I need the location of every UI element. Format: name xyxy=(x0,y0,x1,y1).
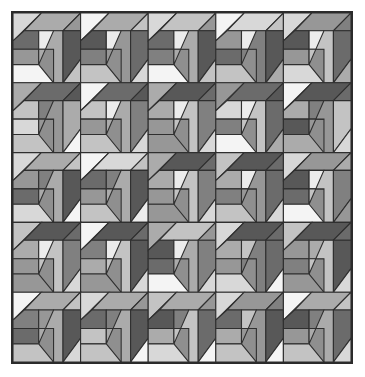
tile-part-bottom-left-wedge xyxy=(216,134,257,152)
tile-part-bottom-left-wedge xyxy=(148,204,189,222)
tile-r1-c1 xyxy=(13,13,81,83)
tile-part-left-face-lower xyxy=(81,119,107,134)
tile-r1-c4 xyxy=(216,13,284,83)
tile-part-left-face-lower xyxy=(216,49,242,64)
tile-part-bottom-left-wedge xyxy=(283,65,324,83)
tile-part-left-face-lower xyxy=(148,329,174,344)
tile-part-left-face-lower xyxy=(148,119,174,134)
tile-part-bottom-left-wedge xyxy=(13,65,54,83)
tile-part-bottom-left-wedge xyxy=(216,274,257,292)
tile-r3-c5 xyxy=(283,153,351,223)
tile-part-bottom-left-wedge xyxy=(148,274,189,292)
tile-part-left-face-lower xyxy=(283,259,309,274)
tile-part-bottom-left-wedge xyxy=(216,65,257,83)
tile-part-left-face-lower xyxy=(148,49,174,64)
tile-part-left-face-lower xyxy=(81,329,107,344)
tile-part-bottom-left-wedge xyxy=(81,344,122,362)
tile-r3-c1 xyxy=(13,153,81,223)
tile-part-bottom-left-wedge xyxy=(283,134,324,152)
tile-r2-c4 xyxy=(216,83,284,153)
tile-part-bottom-left-wedge xyxy=(148,134,189,152)
tile-r4-c5 xyxy=(283,222,351,292)
artwork-canvas xyxy=(0,0,365,377)
tile-part-left-face-lower xyxy=(13,49,39,64)
tile-r5-c5 xyxy=(283,292,351,362)
tile-part-left-face-lower xyxy=(283,119,309,134)
tile-r4-c1 xyxy=(13,222,81,292)
tile-part-left-face-lower xyxy=(81,49,107,64)
tile-part-left-face-lower xyxy=(216,119,242,134)
tile-r1-c5 xyxy=(283,13,351,83)
tile-part-bottom-left-wedge xyxy=(81,65,122,83)
tile-part-bottom-left-wedge xyxy=(148,65,189,83)
tile-r4-c4 xyxy=(216,222,284,292)
tile-part-bottom-left-wedge xyxy=(216,204,257,222)
tile-part-left-face-lower xyxy=(216,259,242,274)
tile-part-left-face-lower xyxy=(81,189,107,204)
tile-r2-c1 xyxy=(13,83,81,153)
tile-part-left-face-lower xyxy=(81,259,107,274)
tile-part-left-face-lower xyxy=(13,329,39,344)
tile-part-bottom-left-wedge xyxy=(13,274,54,292)
tile-part-bottom-left-wedge xyxy=(283,274,324,292)
tile-r5-c1 xyxy=(13,292,81,362)
tile-r2-c2 xyxy=(81,83,149,153)
tile-r1-c3 xyxy=(148,13,216,83)
tiling-grid xyxy=(13,13,351,362)
tile-part-bottom-left-wedge xyxy=(216,344,257,362)
tile-part-left-face-lower xyxy=(13,119,39,134)
tile-part-left-face-lower xyxy=(13,189,39,204)
tile-r4-c3 xyxy=(148,222,216,292)
tile-part-left-face-lower xyxy=(283,329,309,344)
tile-part-bottom-left-wedge xyxy=(13,134,54,152)
tile-part-bottom-left-wedge xyxy=(13,344,54,362)
tile-part-bottom-left-wedge xyxy=(81,274,122,292)
tile-part-left-face-lower xyxy=(216,329,242,344)
tile-r2-c3 xyxy=(148,83,216,153)
tile-part-bottom-left-wedge xyxy=(13,204,54,222)
tile-part-left-face-lower xyxy=(148,259,174,274)
tile-r5-c4 xyxy=(216,292,284,362)
tile-r4-c2 xyxy=(81,222,149,292)
tile-part-left-face-lower xyxy=(283,49,309,64)
tile-r3-c3 xyxy=(148,153,216,223)
tile-part-bottom-left-wedge xyxy=(81,134,122,152)
tile-part-left-face-lower xyxy=(283,189,309,204)
tile-r3-c4 xyxy=(216,153,284,223)
pattern-frame xyxy=(11,11,353,364)
tile-r3-c2 xyxy=(81,153,149,223)
tile-part-left-face-lower xyxy=(13,259,39,274)
tile-part-left-face-lower xyxy=(216,189,242,204)
tile-part-bottom-left-wedge xyxy=(81,204,122,222)
tile-r5-c2 xyxy=(81,292,149,362)
tiles-root xyxy=(13,13,351,362)
tile-r1-c2 xyxy=(81,13,149,83)
tile-r5-c3 xyxy=(148,292,216,362)
tile-part-bottom-left-wedge xyxy=(283,344,324,362)
tile-part-bottom-left-wedge xyxy=(283,204,324,222)
tile-part-bottom-left-wedge xyxy=(148,344,189,362)
tile-part-left-face-lower xyxy=(148,189,174,204)
tile-r2-c5 xyxy=(283,83,351,153)
